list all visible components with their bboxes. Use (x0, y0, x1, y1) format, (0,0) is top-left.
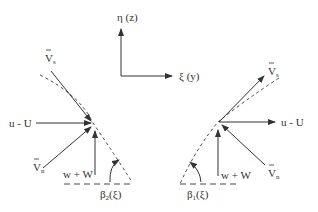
right-angle-arc (190, 162, 201, 182)
right-u-label: u - U (281, 116, 304, 128)
eta-axis-label: η (z) (117, 11, 138, 24)
right-angle-label: β1(ξ) (187, 188, 209, 202)
coordinate-axes: η (z) ξ (y) (117, 11, 200, 83)
left-u-label: u - U (9, 117, 32, 129)
left-vn-arrow (43, 127, 91, 168)
right-vn-label: Vn (268, 167, 280, 181)
left-vs-arrow (51, 71, 91, 121)
left-angle-arc (110, 160, 119, 182)
left-vs-label: Vs (45, 52, 56, 66)
xi-axis-label: ξ (y) (179, 70, 200, 83)
right-vs-label: Vs (268, 65, 279, 79)
left-dashed-surface-curve (40, 75, 132, 182)
velocity-diagram: η (z) ξ (y) Vs u - U Vn w + W β2(ξ) (0, 0, 318, 212)
left-w-label: w + W (63, 168, 93, 180)
diagram-canvas: η (z) ξ (y) Vs u - U Vn w + W β2(ξ) (0, 0, 318, 212)
right-vs-arrow (219, 76, 264, 122)
right-velocity-triangle: Vs u - U Vn w + W β1(ξ) (180, 63, 304, 202)
left-velocity-triangle: Vs u - U Vn w + W β2(ξ) (9, 50, 134, 202)
right-vn-arrow (222, 125, 265, 165)
left-angle-label: β2(ξ) (100, 188, 122, 202)
left-vn-label: Vn (33, 161, 45, 175)
right-w-label: w + W (221, 169, 251, 181)
